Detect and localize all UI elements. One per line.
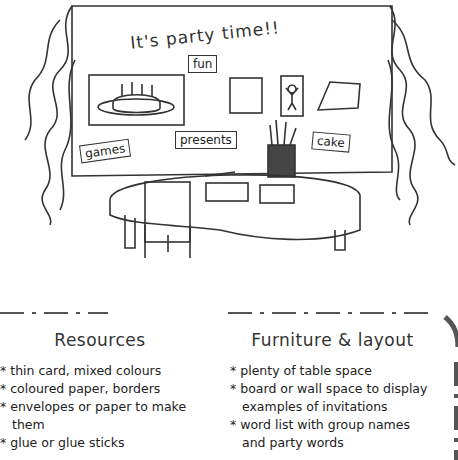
list-item: thin card, mixed colours — [0, 362, 200, 380]
list-item: word list with group names and party wor… — [230, 416, 435, 452]
word-card-cake: cake — [311, 131, 350, 152]
list-item: board or wall space to display examples … — [230, 380, 435, 416]
list-item: coloured paper, borders — [0, 380, 200, 398]
list-item: glue or glue sticks — [0, 434, 200, 452]
resources-panel: Resources thin card, mixed colours colou… — [0, 330, 200, 460]
furniture-panel: Furniture & layout plenty of table space… — [230, 330, 435, 460]
list-item: plenty of table space — [230, 362, 435, 380]
word-card-fun: fun — [188, 55, 217, 73]
furniture-list: plenty of table space board or wall spac… — [230, 362, 435, 452]
list-item: envelopes or paper to make them — [0, 398, 200, 434]
word-card-presents: presents — [175, 131, 237, 149]
party-illustration: It's party time!! fun games presents cak… — [0, 0, 458, 260]
furniture-heading: Furniture & layout — [230, 330, 435, 350]
resources-list: thin card, mixed colours coloured paper,… — [0, 362, 200, 452]
resources-heading: Resources — [0, 330, 200, 350]
